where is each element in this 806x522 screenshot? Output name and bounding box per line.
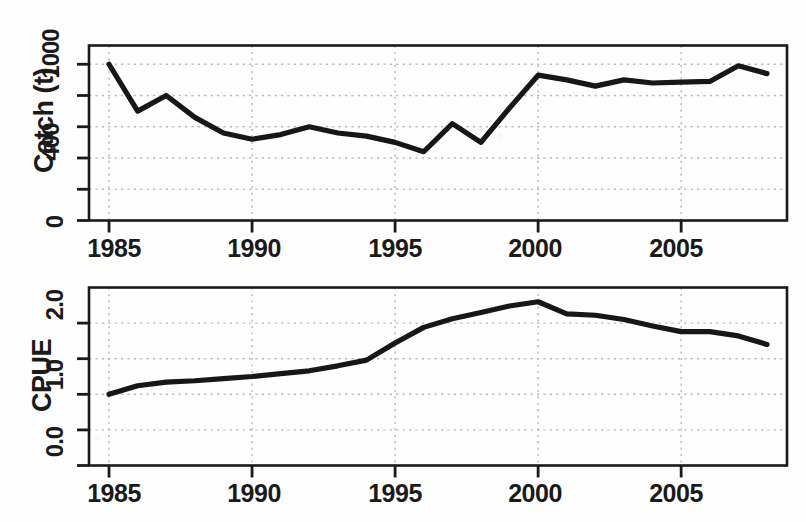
- cpue-plot-frame: [89, 288, 787, 466]
- cpue-x-ticks: [109, 466, 681, 478]
- cpue-y-ticks: [77, 323, 89, 465]
- catch-x-ticks: [109, 221, 681, 233]
- cpue-plot-svg: [0, 265, 806, 522]
- figure-two-panel-timeseries: Catch (t) 1000 400 0 1985 1990 1995 2000…: [0, 0, 806, 522]
- catch-plot-svg: [0, 0, 806, 265]
- catch-data-line: [109, 64, 767, 152]
- panel-cpue: CPUE 2.0 1.0 0.0 1985 1990 1995 2000 200…: [0, 265, 806, 522]
- cpue-data-line: [109, 302, 767, 395]
- cpue-gridlines: [89, 288, 787, 466]
- catch-y-ticks: [77, 64, 89, 220]
- catch-plot-frame: [89, 46, 787, 221]
- panel-catch: Catch (t) 1000 400 0 1985 1990 1995 2000…: [0, 0, 806, 265]
- catch-gridlines: [89, 46, 787, 221]
